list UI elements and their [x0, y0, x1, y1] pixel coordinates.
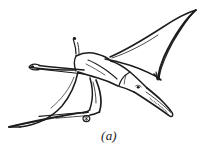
figure-container: (a)	[0, 0, 218, 154]
right-wing-membrane	[105, 10, 196, 80]
head-crest	[119, 72, 130, 86]
wing-finger-claw	[73, 37, 79, 54]
left-wing-membrane	[9, 66, 88, 128]
figure-caption: (a)	[0, 128, 218, 144]
foot-toe	[83, 116, 90, 122]
